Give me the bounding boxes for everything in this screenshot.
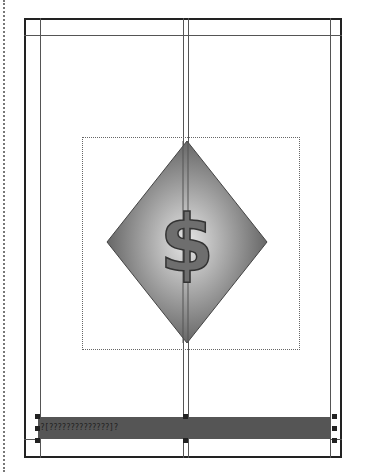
selection-handle-mr[interactable] — [332, 426, 337, 431]
footer-bar-text: ?[??????????????]? — [40, 423, 118, 433]
left-margin-guide[interactable] — [40, 18, 41, 458]
selection-handle-tc[interactable] — [183, 414, 188, 419]
right-margin-guide[interactable] — [330, 18, 331, 458]
selection-handle-bc[interactable] — [183, 438, 188, 443]
dotted-margin-line — [3, 0, 5, 472]
selection-handle-tr[interactable] — [332, 414, 337, 419]
footer-bar[interactable]: ?[??????????????]? — [38, 417, 330, 439]
selection-handle-br[interactable] — [332, 438, 337, 443]
selection-handle-ml[interactable] — [35, 426, 40, 431]
dollar-sign-icon: $ — [160, 199, 214, 289]
selection-handle-tl[interactable] — [35, 414, 40, 419]
selection-handle-bl[interactable] — [35, 438, 40, 443]
diamond-dollar-graphic[interactable]: $ — [105, 139, 269, 345]
